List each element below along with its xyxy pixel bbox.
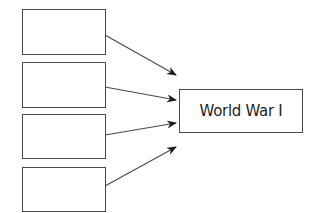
arrow-2 [105,87,176,100]
effect-box-world-war-i: World War I [179,89,303,133]
cause-box-4 [22,167,106,212]
arrow-4 [105,147,176,186]
cause-box-3 [22,114,106,159]
effect-label: World War I [200,102,283,120]
cause-box-2 [22,62,106,108]
arrow-1 [105,35,176,75]
arrow-3 [105,123,176,135]
cause-box-1 [22,9,106,55]
